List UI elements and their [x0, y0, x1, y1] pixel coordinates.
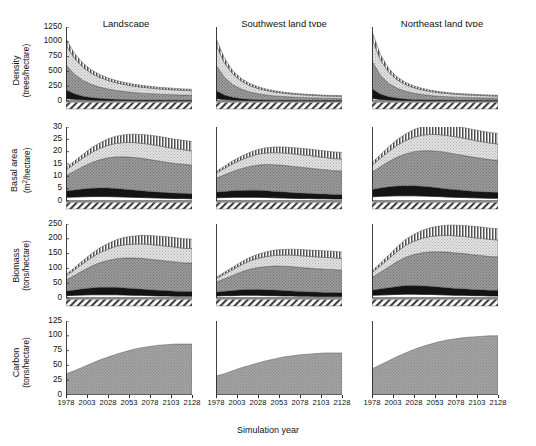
area-pine [66, 103, 192, 110]
xtick-mark [108, 395, 109, 398]
ytick-density-1000: 1000 [26, 37, 62, 45]
ytick-carbon-50: 50 [26, 361, 62, 369]
xtick-mark [87, 395, 88, 398]
ytick-basal_area-5: 5 [26, 184, 62, 192]
ytick-biomass-100: 100 [26, 264, 62, 272]
ytick-basal_area-0: 0 [26, 197, 62, 205]
plot-area [66, 127, 192, 210]
ytick-density-0: 0 [26, 97, 62, 105]
xtick-mark [171, 395, 172, 398]
plot-area [372, 321, 498, 395]
xtick-mark [477, 395, 478, 398]
ytick-biomass-150: 150 [26, 249, 62, 257]
ylabel-biomass-text: Biomass [11, 221, 22, 311]
ytick-basal_area-30: 30 [26, 123, 62, 131]
panel-density-landscape [66, 27, 192, 110]
xtick-1-2128: 2128 [328, 399, 356, 407]
area-pine [372, 203, 498, 210]
panel-carbon-southwest-land-type [216, 321, 342, 395]
area-pine [66, 300, 192, 307]
xtick-mark [456, 395, 457, 398]
figure-canvas: Landscape Southwest land type Northeast … [0, 0, 536, 446]
ytick-biomass-50: 50 [26, 279, 62, 287]
ylabel-carbon-text: Carbon [11, 318, 22, 408]
panel-density-southwest-land-type [216, 27, 342, 110]
panel-basal_area-landscape [66, 127, 192, 210]
xtick-mark [435, 395, 436, 398]
area-pine [216, 300, 342, 307]
xtick-mark [150, 395, 151, 398]
plot-area [216, 127, 342, 210]
ytick-carbon-75: 75 [26, 346, 62, 354]
area-total-carbon [66, 344, 192, 395]
ylabel-density-text: Density [11, 26, 22, 116]
ytick-density-250: 250 [26, 82, 62, 90]
ylabel-basal-text: Basal area [9, 125, 20, 215]
xtick-mark [300, 395, 301, 398]
plot-area [216, 224, 342, 307]
ytick-carbon-125: 125 [26, 317, 62, 325]
ytick-biomass-200: 200 [26, 234, 62, 242]
area-pine [216, 103, 342, 110]
plot-area [216, 27, 342, 110]
plot-area [372, 224, 498, 307]
ytick-carbon-0: 0 [26, 391, 62, 399]
plot-area [66, 27, 192, 110]
area-pine [216, 203, 342, 210]
panel-basal_area-southwest-land-type [216, 127, 342, 210]
xtick-mark [192, 395, 193, 398]
panel-density-northeast-land-type [372, 27, 498, 110]
ytick-density-500: 500 [26, 67, 62, 75]
ytick-carbon-25: 25 [26, 376, 62, 384]
area-pine [372, 103, 498, 110]
area-pine [66, 203, 192, 210]
ytick-density-1250: 1250 [26, 23, 62, 31]
xtick-mark [258, 395, 259, 398]
xtick-mark [342, 395, 343, 398]
ytick-basal_area-25: 25 [26, 135, 62, 143]
plot-area [216, 321, 342, 395]
panel-biomass-northeast-land-type [372, 224, 498, 307]
plot-area [372, 127, 498, 210]
ytick-basal_area-15: 15 [26, 160, 62, 168]
panel-carbon-landscape [66, 321, 192, 395]
panel-biomass-landscape [66, 224, 192, 307]
area-total-carbon [216, 353, 342, 395]
plot-area [66, 321, 192, 395]
area-pine [372, 300, 498, 307]
ytick-carbon-100: 100 [26, 331, 62, 339]
ytick-basal_area-20: 20 [26, 147, 62, 155]
ytick-basal_area-10: 10 [26, 172, 62, 180]
xtick-mark [393, 395, 394, 398]
xtick-mark [216, 395, 217, 398]
ytick-density-750: 750 [26, 52, 62, 60]
xtick-mark [498, 395, 499, 398]
xtick-mark [414, 395, 415, 398]
xtick-mark [372, 395, 373, 398]
ytick-biomass-0: 0 [26, 294, 62, 302]
plot-area [66, 224, 192, 307]
xtick-mark [279, 395, 280, 398]
panel-basal_area-northeast-land-type [372, 127, 498, 210]
xtick-mark [66, 395, 67, 398]
xaxis-title: Simulation year [0, 425, 536, 435]
area-total-carbon [372, 336, 498, 395]
panel-carbon-northeast-land-type [372, 321, 498, 395]
xtick-2-2128: 2128 [484, 399, 512, 407]
xtick-mark [237, 395, 238, 398]
plot-area [372, 27, 498, 110]
xtick-mark [129, 395, 130, 398]
ytick-biomass-250: 250 [26, 220, 62, 228]
panel-biomass-southwest-land-type [216, 224, 342, 307]
xtick-mark [321, 395, 322, 398]
